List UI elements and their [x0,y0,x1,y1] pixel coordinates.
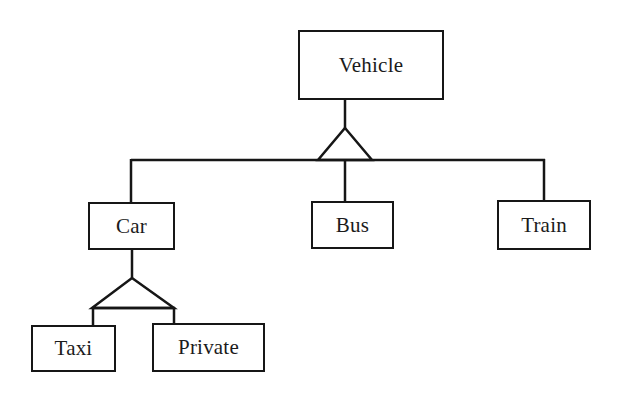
class-box-bus[interactable]: Bus [311,201,394,249]
class-label-private: Private [178,337,239,358]
class-label-bus: Bus [336,215,369,236]
class-label-car: Car [116,216,147,237]
class-label-vehicle: Vehicle [339,55,403,76]
generalization-triangle-car [92,278,174,308]
generalization-triangle-vehicle [318,128,372,160]
class-label-train: Train [521,215,567,236]
diagram-canvas: Vehicle Car Bus Train Taxi Private [0,0,625,394]
class-box-private[interactable]: Private [152,323,265,372]
class-label-taxi: Taxi [55,338,93,359]
class-box-car[interactable]: Car [88,202,175,250]
class-box-taxi[interactable]: Taxi [31,325,116,372]
class-box-vehicle[interactable]: Vehicle [298,30,444,100]
class-box-train[interactable]: Train [497,200,591,250]
